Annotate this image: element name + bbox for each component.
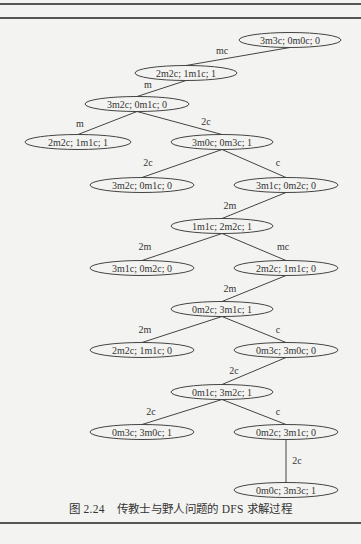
- node-label: 3m1c; 0m2c; 0: [256, 180, 316, 191]
- edge-label: 2c: [201, 116, 211, 127]
- node-label: 2m2c; 1m1c; 0: [112, 345, 172, 356]
- edge-label: 2c: [292, 455, 302, 466]
- state-node: 3m1c; 0m2c; 0: [234, 178, 338, 193]
- edge-label: c: [276, 406, 281, 417]
- state-node: 3m3c; 0m0c; 0: [239, 33, 341, 48]
- figure-caption-text: 传教士与野人问题的 DFS 求解过程: [117, 503, 292, 515]
- state-node: 0m2c; 3m1c; 1: [171, 302, 273, 317]
- node-label: 0m2c; 3m1c; 1: [192, 304, 252, 315]
- dfs-search-tree: mcmm2c2cc2m2mmc2m2mc2c2cc2c 3m3c; 0m0c; …: [0, 0, 361, 544]
- state-node: 0m3c; 3m0c; 0: [234, 343, 338, 358]
- node-label: 2m2c; 1m1c; 1: [156, 68, 216, 79]
- node-label: 3m1c; 0m2c; 0: [112, 263, 172, 274]
- edge-label: 2c: [143, 157, 153, 168]
- state-node: 3m0c; 0m3c; 1: [171, 135, 273, 150]
- state-node: 2m2c; 1m1c; 0: [90, 343, 194, 358]
- state-node: 2m2c; 1m1c; 1: [135, 66, 237, 81]
- state-node: 1m1c; 2m2c; 1: [171, 219, 273, 234]
- edge-n2-n3: [78, 112, 137, 135]
- node-label: 3m2c; 0m1c; 0: [112, 180, 172, 191]
- node-label: 0m3c; 3m0c; 0: [256, 345, 316, 356]
- edge-label: m: [76, 118, 84, 129]
- state-node: 0m1c; 3m2c; 1: [171, 385, 273, 400]
- edge-label: 2m: [224, 283, 237, 294]
- edge-n0-n1: [186, 48, 290, 66]
- edge-label: 2c: [229, 365, 239, 376]
- edge-label: mc: [277, 241, 290, 252]
- state-node: 3m2c; 0m1c; 0: [85, 97, 189, 112]
- node-label: 3m2c; 0m1c; 0: [107, 99, 167, 110]
- edge-label: m: [144, 79, 152, 90]
- edge-label: 2m: [139, 241, 152, 252]
- node-label: 2m2c; 1m1c; 1: [48, 137, 108, 148]
- node-label: 3m0c; 0m3c; 1: [192, 137, 252, 148]
- state-node: 3m1c; 0m2c; 0: [90, 261, 194, 276]
- state-node: 3m2c; 0m1c; 0: [90, 178, 194, 193]
- node-label: 0m0c; 3m3c; 1: [256, 485, 316, 496]
- edge-label: mc: [216, 45, 229, 56]
- edge-n4-n5: [142, 150, 222, 178]
- edge-label: c: [276, 157, 281, 168]
- node-label: 3m3c; 0m0c; 0: [260, 35, 320, 46]
- node-label: 2m2c; 1m1c; 0: [256, 263, 316, 274]
- nodes-layer: 3m3c; 0m0c; 02m2c; 1m1c; 13m2c; 0m1c; 02…: [25, 33, 341, 498]
- node-label: 0m3c; 3m0c; 1: [112, 427, 172, 438]
- node-label: 0m2c; 3m1c; 0: [256, 427, 316, 438]
- edge-label: 2c: [146, 406, 156, 417]
- edge-n10-n11: [142, 317, 222, 343]
- node-label: 0m1c; 3m2c; 1: [192, 387, 252, 398]
- state-node: 0m0c; 3m3c; 1: [234, 483, 338, 498]
- bottom-rule: [0, 522, 361, 524]
- node-label: 1m1c; 2m2c; 1: [192, 221, 252, 232]
- figure-number: 图 2.24: [69, 503, 105, 515]
- figure-caption: 图 2.24传教士与野人问题的 DFS 求解过程: [0, 500, 361, 516]
- edge-label: c: [276, 324, 281, 335]
- state-node: 0m3c; 3m0c; 1: [90, 425, 194, 440]
- edge-label: 2m: [224, 200, 237, 211]
- edge-n7-n8: [142, 234, 222, 261]
- state-node: 2m2c; 1m1c; 1: [25, 135, 131, 150]
- edge-label: 2m: [139, 324, 152, 335]
- state-node: 2m2c; 1m1c; 0: [234, 261, 338, 276]
- state-node: 0m2c; 3m1c; 0: [234, 425, 338, 440]
